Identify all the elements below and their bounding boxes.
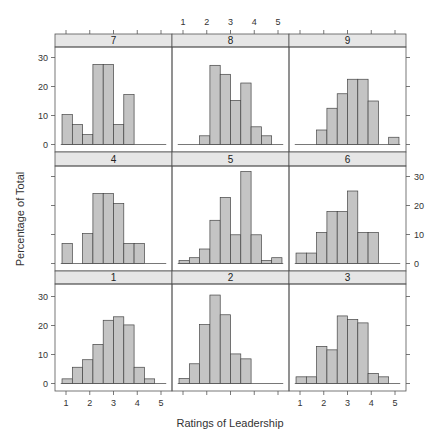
x-tick-label-top: 1 bbox=[180, 17, 185, 27]
panel-8: 8 bbox=[172, 34, 289, 152]
histogram-bar bbox=[296, 377, 306, 384]
panel-9: 9 bbox=[289, 34, 406, 152]
histogram-bar bbox=[200, 325, 210, 384]
histogram-bar bbox=[368, 101, 378, 145]
histogram-bar bbox=[348, 191, 358, 264]
histogram-bar bbox=[220, 74, 230, 144]
histogram-bar bbox=[189, 364, 199, 384]
y-tick-label-right: 20 bbox=[414, 201, 424, 211]
histogram-bar bbox=[317, 346, 327, 383]
panels-group: 7894561231234512345123450102030010203001… bbox=[38, 17, 424, 408]
histogram-bar bbox=[231, 235, 241, 264]
histogram-bar bbox=[251, 127, 261, 145]
histogram-bar bbox=[220, 315, 230, 384]
y-tick-label-left: 10 bbox=[38, 350, 48, 360]
histogram-bar bbox=[114, 124, 124, 144]
y-tick-label-right: 0 bbox=[414, 259, 419, 269]
histogram-bar bbox=[210, 65, 220, 144]
histogram-bar bbox=[348, 79, 358, 144]
histogram-bar bbox=[124, 325, 134, 384]
histogram-bar bbox=[83, 234, 93, 264]
x-tick-label-bottom: 2 bbox=[321, 398, 326, 408]
histogram-bar bbox=[134, 243, 144, 263]
histogram-bar bbox=[358, 79, 368, 144]
histogram-bar bbox=[210, 295, 220, 383]
y-tick-label-left: 0 bbox=[43, 379, 48, 389]
y-tick-label-right: 10 bbox=[414, 230, 424, 240]
panel-3: 3 bbox=[289, 271, 406, 391]
x-tick-label-bottom: 5 bbox=[158, 398, 163, 408]
strip-label: 3 bbox=[345, 272, 351, 283]
histogram-bar bbox=[261, 136, 271, 145]
y-axis-title: Percentage of Total bbox=[14, 172, 26, 267]
x-tick-label-bottom: 3 bbox=[345, 398, 350, 408]
histogram-bar bbox=[306, 377, 316, 384]
panel-4: 4 bbox=[55, 152, 172, 271]
x-tick-label-top: 4 bbox=[252, 17, 257, 27]
lattice-histogram-chart: 7894561231234512345123450102030010203001… bbox=[0, 0, 442, 445]
histogram-bar bbox=[389, 137, 399, 144]
histogram-bar bbox=[179, 261, 189, 264]
y-tick-label-left: 0 bbox=[43, 140, 48, 150]
histogram-bar bbox=[62, 115, 72, 145]
y-tick-label-left: 10 bbox=[38, 111, 48, 121]
histogram-bar bbox=[62, 243, 72, 263]
histogram-bar bbox=[189, 258, 199, 264]
histogram-bar bbox=[241, 83, 251, 144]
histogram-bar bbox=[83, 360, 93, 384]
histogram-bar bbox=[348, 319, 358, 383]
histogram-bar bbox=[337, 316, 347, 384]
histogram-bar bbox=[306, 253, 316, 263]
histogram-bar bbox=[200, 136, 210, 145]
histogram-bar bbox=[317, 232, 327, 263]
histogram-bar bbox=[261, 261, 271, 264]
x-tick-label-top: 3 bbox=[228, 17, 233, 27]
histogram-bar bbox=[358, 232, 368, 263]
histogram-bar bbox=[83, 135, 93, 145]
histogram-bar bbox=[296, 253, 306, 263]
histogram-bar bbox=[317, 130, 327, 145]
panel-6: 6 bbox=[289, 152, 406, 271]
x-tick-label-bottom: 4 bbox=[135, 398, 140, 408]
histogram-bar bbox=[114, 203, 124, 263]
x-tick-label-bottom: 1 bbox=[297, 398, 302, 408]
histogram-bar bbox=[179, 379, 189, 384]
histogram-bar bbox=[327, 108, 337, 144]
x-tick-label-bottom: 4 bbox=[369, 398, 374, 408]
strip-label: 9 bbox=[345, 35, 351, 46]
histogram-bar bbox=[327, 350, 337, 384]
histogram-bar bbox=[241, 359, 251, 384]
histogram-bar bbox=[368, 232, 378, 263]
histogram-bar bbox=[368, 373, 378, 383]
histogram-bar bbox=[93, 344, 103, 383]
x-tick-label-bottom: 1 bbox=[63, 398, 68, 408]
histogram-bar bbox=[241, 172, 251, 264]
histogram-bar bbox=[93, 64, 103, 144]
y-tick-label-left: 30 bbox=[38, 53, 48, 63]
histogram-bar bbox=[337, 94, 347, 145]
histogram-bar bbox=[210, 220, 220, 263]
histogram-bar bbox=[251, 235, 261, 264]
histogram-bar bbox=[272, 258, 282, 264]
histogram-bar bbox=[378, 377, 388, 384]
panel-2: 2 bbox=[172, 271, 289, 391]
histogram-bar bbox=[93, 194, 103, 264]
histogram-bar bbox=[114, 317, 124, 384]
histogram-bar bbox=[72, 124, 82, 144]
histogram-bar bbox=[358, 323, 368, 384]
x-tick-label-top: 5 bbox=[275, 17, 280, 27]
histogram-bar bbox=[200, 249, 210, 264]
histogram-bar bbox=[103, 320, 113, 383]
histogram-bar bbox=[220, 197, 230, 263]
strip-label: 7 bbox=[111, 35, 117, 46]
histogram-bar bbox=[72, 367, 82, 383]
histogram-bar bbox=[144, 379, 154, 384]
histogram-bar bbox=[124, 243, 134, 263]
histogram-bar bbox=[62, 379, 72, 384]
histogram-bar bbox=[327, 212, 337, 264]
panel-5: 5 bbox=[172, 152, 289, 271]
x-tick-label-bottom: 3 bbox=[111, 398, 116, 408]
x-tick-label-top: 2 bbox=[204, 17, 209, 27]
y-tick-label-right: 30 bbox=[414, 172, 424, 182]
x-tick-label-bottom: 5 bbox=[392, 398, 397, 408]
